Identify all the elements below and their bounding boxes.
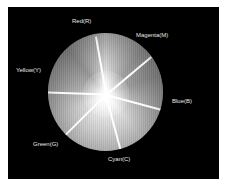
label-red: Red(R) [72,17,91,25]
label-magenta: Magenta(M) [136,31,168,39]
color-wheel [48,33,163,151]
figure-root: Red(R) Magenta(M) Blue(B) Cyan(C) Green(… [0,0,227,186]
label-cyan: Cyan(C) [108,155,130,163]
label-yellow: Yellow(Y) [16,66,41,74]
label-blue: Blue(B) [172,97,192,105]
plot-area: Red(R) Magenta(M) Blue(B) Cyan(C) Green(… [8,7,219,179]
label-green: Green(G) [33,140,58,148]
wheel-angular-shading [48,33,163,151]
